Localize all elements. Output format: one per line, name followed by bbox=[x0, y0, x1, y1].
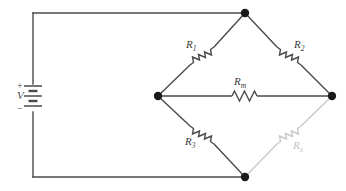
node-right-dot bbox=[328, 92, 336, 100]
resistor-label-rx-sub: x bbox=[300, 145, 303, 154]
wire-r1-lower bbox=[158, 65, 190, 96]
resistor-label-r3-base: R bbox=[185, 135, 192, 147]
source-loop-wires bbox=[33, 13, 245, 177]
resistor-label-r1: R1 bbox=[186, 39, 196, 53]
wire-r2-lower bbox=[301, 65, 332, 96]
wire-rx-lower bbox=[245, 144, 277, 177]
resistor-label-rm-base: R bbox=[234, 75, 241, 87]
node-left-dot bbox=[154, 92, 162, 100]
wire-r3-upper bbox=[158, 96, 190, 126]
wire-r1-upper bbox=[214, 13, 245, 47]
resistor-label-rm: Rm bbox=[234, 76, 246, 90]
branch-r1 bbox=[158, 13, 245, 96]
resistor-rm-zigzag bbox=[232, 91, 257, 101]
resistor-label-r3-sub: 3 bbox=[192, 141, 196, 150]
circuit-schematic-svg bbox=[0, 0, 346, 191]
resistor-label-rx-base: R bbox=[293, 139, 300, 151]
resistor-label-r1-sub: 1 bbox=[193, 44, 197, 53]
resistor-label-r3: R3 bbox=[185, 136, 195, 150]
branch-rm bbox=[158, 91, 332, 101]
battery-symbol bbox=[24, 86, 42, 106]
branch-rx bbox=[245, 96, 332, 177]
wire-r2-upper bbox=[245, 13, 277, 47]
junction-nodes bbox=[154, 9, 336, 181]
resistor-label-r2: R2 bbox=[294, 39, 304, 53]
resistor-label-r1-base: R bbox=[186, 38, 193, 50]
resistor-label-rx: Rx bbox=[293, 140, 303, 154]
node-top-dot bbox=[241, 9, 249, 17]
branch-r3 bbox=[158, 96, 245, 177]
wire-rx-upper bbox=[301, 96, 332, 126]
node-bottom-dot bbox=[241, 173, 249, 181]
resistor-label-rm-sub: m bbox=[241, 81, 246, 90]
wire-r3-lower bbox=[214, 144, 245, 177]
resistor-label-r2-sub: 2 bbox=[301, 44, 305, 53]
source-voltage-label: V bbox=[17, 90, 24, 101]
source-minus-sign: − bbox=[17, 104, 23, 114]
resistor-label-r2-base: R bbox=[294, 38, 301, 50]
branch-r2 bbox=[245, 13, 332, 96]
circuit-diagram: + V − R1 R2 Rm R3 Rx bbox=[0, 0, 346, 191]
